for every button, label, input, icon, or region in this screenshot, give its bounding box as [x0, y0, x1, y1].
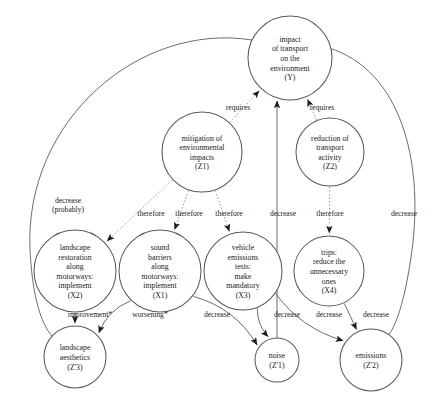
nodes-layer: impactof transporton theenvironment(Y)mi… — [34, 16, 402, 391]
edge-label-z1-x3: therefore — [215, 209, 243, 218]
node-n1[interactable]: noise(Z'1) — [255, 338, 299, 382]
edge-label-z1-x1: therefore — [175, 209, 203, 218]
edge-label-y-z3: decrease(probably) — [52, 196, 85, 214]
causal-diagram-canvas: impactof transporton theenvironment(Y)mi… — [0, 0, 435, 400]
edge-label-x1-n1: decrease — [274, 310, 301, 319]
edge-label-z2-x4: therefore — [316, 209, 344, 218]
edge-label-y-n2: decrease — [391, 209, 418, 218]
edge-label-n1-y: decrease — [270, 209, 297, 218]
node-z1[interactable]: mitigation ofenvironmentalimpacts(Z1) — [162, 112, 242, 192]
edge-x4-to-n2 — [344, 304, 356, 330]
edge-label-x1-z3: worsening* — [132, 310, 168, 319]
edge-label-x3-n1: decrease — [204, 310, 231, 319]
node-x2[interactable]: landscaperestorationalongmotorways:imple… — [34, 230, 116, 312]
diagram-svg: impactof transporton theenvironment(Y)mi… — [0, 0, 435, 400]
node-x3[interactable]: vehicleemissionstests:makemandatory(X3) — [204, 232, 282, 310]
node-n2[interactable]: emissions(Z'2) — [340, 329, 402, 391]
edge-label-x4-n2: decrease — [363, 310, 390, 319]
edge-label-z2-y: requires — [310, 103, 335, 112]
node-z2[interactable]: reduction oftransportactivity(Z2) — [296, 118, 364, 186]
edge-label-x2-z3: improvement* — [68, 310, 112, 319]
edge-label-x3-n2: decrease — [316, 310, 343, 319]
edge-x3-to-n1 — [257, 308, 268, 336]
edge-label-z1-y: requires — [226, 103, 251, 112]
node-x4[interactable]: trips:reduce theunnecessaryones(X4) — [294, 236, 364, 306]
node-y[interactable]: impactof transporton theenvironment(Y) — [248, 16, 332, 100]
node-z3[interactable]: landscapeaesthetics(Z'3) — [44, 326, 106, 388]
edge-label-z1-x2: therefore — [137, 209, 165, 218]
node-label-n1: noise(Z'1) — [269, 351, 286, 370]
node-x1[interactable]: soundbarriersalongmotorways:implement(X1… — [119, 230, 201, 312]
